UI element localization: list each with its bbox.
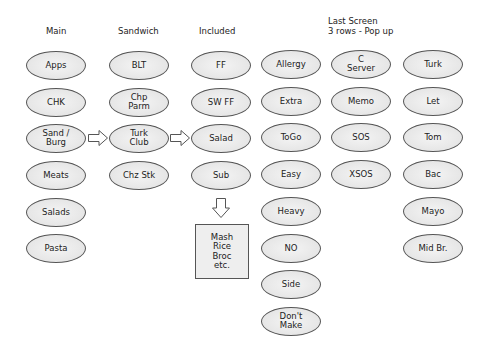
button-topping-mayo[interactable]: Mayo [403, 197, 463, 226]
button-modifier-extra[interactable]: Extra [261, 87, 321, 116]
button-sandwich-blt[interactable]: BLT [109, 51, 169, 80]
button-topping-turk[interactable]: Turk [403, 50, 463, 79]
button-main-salads[interactable]: Salads [26, 198, 86, 227]
button-included-sw-ff[interactable]: SW FF [191, 88, 251, 117]
header-included: Included [199, 26, 235, 36]
button-included-sub[interactable]: Sub [191, 161, 251, 190]
button-main-apps[interactable]: Apps [26, 51, 86, 80]
button-modifier-dont-make[interactable]: Don't Make [261, 307, 321, 336]
header-last-screen: Last Screen 3 rows - Pop up [328, 16, 393, 36]
button-topping-let[interactable]: Let [403, 87, 463, 116]
button-topping-tom[interactable]: Tom [403, 123, 463, 152]
button-main-sand-burg[interactable]: Sand / Burg [26, 124, 86, 153]
button-last-sos[interactable]: SOS [331, 123, 391, 152]
button-modifier-heavy[interactable]: Heavy [261, 197, 321, 226]
button-sandwich-turk-club[interactable]: Turk Club [109, 124, 169, 153]
button-main-chk[interactable]: CHK [26, 88, 86, 117]
button-sandwich-chp-parm[interactable]: Chp Parm [109, 88, 169, 117]
button-modifier-no[interactable]: NO [261, 234, 321, 263]
button-included-salad[interactable]: Salad [191, 124, 251, 153]
button-included-ff[interactable]: FF [191, 51, 251, 80]
button-last-xsos[interactable]: XSOS [331, 160, 391, 189]
button-modifier-allergy[interactable]: Allergy [261, 50, 321, 79]
button-sandwich-chz-stk[interactable]: Chz Stk [109, 161, 169, 190]
button-topping-mid-br[interactable]: Mid Br. [403, 234, 463, 263]
right-arrow-icon [170, 130, 190, 146]
button-modifier-togo[interactable]: ToGo [261, 123, 321, 152]
down-arrow-icon [212, 198, 230, 218]
button-main-meats[interactable]: Meats [26, 161, 86, 190]
right-arrow-icon [88, 130, 108, 146]
button-topping-bac[interactable]: Bac [403, 160, 463, 189]
button-main-pasta[interactable]: Pasta [26, 234, 86, 263]
sides-box: Mash Rice Broc etc. [195, 224, 249, 279]
header-main: Main [46, 26, 66, 36]
button-last-memo[interactable]: Memo [331, 87, 391, 116]
button-modifier-easy[interactable]: Easy [261, 160, 321, 189]
header-sandwich: Sandwich [118, 26, 159, 36]
button-last-c-server[interactable]: C Server [331, 50, 391, 79]
button-modifier-side[interactable]: Side [261, 270, 321, 299]
